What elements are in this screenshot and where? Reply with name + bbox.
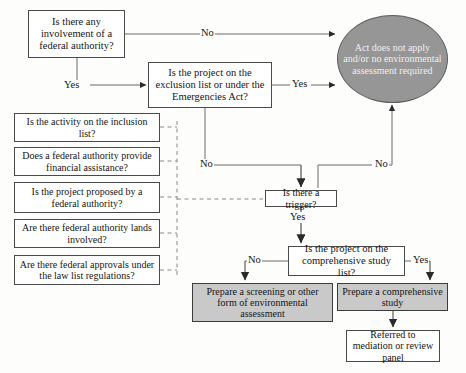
outcome-prepare-screening: Prepare a screening or other form of env… bbox=[192, 283, 333, 322]
decision-is-there-a-trigger: Is there a trigger? bbox=[265, 190, 337, 207]
trigger-proposed-by-federal-authority: Is the project proposed by a federal aut… bbox=[14, 182, 160, 213]
decision-exclusion-list: Is the project on the exclusion list or … bbox=[148, 62, 272, 108]
trigger-law-list-approvals: Are there federal approvals under the la… bbox=[14, 255, 160, 285]
outcome-referred-to-mediation: Referred to mediation or review panel bbox=[346, 330, 440, 362]
edge-label-yes-exclusion-list: Yes bbox=[291, 79, 308, 90]
edge-label-no-exclusion-list: No bbox=[199, 159, 214, 170]
trigger-federal-authority-lands: Are there federal authority lands involv… bbox=[14, 219, 160, 248]
edge-label-yes-comprehensive-study: Yes bbox=[412, 255, 429, 266]
edge-label-yes-federal-involvement: Yes bbox=[63, 80, 80, 91]
decision-federal-involvement: Is there any involvement of a federal au… bbox=[28, 10, 125, 58]
edge-label-no-federal-involvement: No bbox=[200, 28, 215, 39]
trigger-financial-assistance: Does a federal authority provide financi… bbox=[14, 147, 160, 176]
decision-comprehensive-study-list: Is the project on the comprehensive stud… bbox=[288, 246, 405, 276]
edge-label-no-comprehensive-study: No bbox=[247, 255, 262, 266]
edge-label-no-trigger: No bbox=[374, 159, 389, 170]
flowchart-canvas: Is there any involvement of a federal au… bbox=[0, 0, 466, 373]
trigger-inclusion-list: Is the activity on the inclusion list? bbox=[14, 113, 160, 142]
edge-label-yes-trigger: Yes bbox=[289, 212, 306, 223]
outcome-prepare-comprehensive-study: Prepare a comprehensive study bbox=[337, 283, 448, 311]
terminal-act-does-not-apply: Act does not apply and/or no environment… bbox=[337, 15, 448, 103]
